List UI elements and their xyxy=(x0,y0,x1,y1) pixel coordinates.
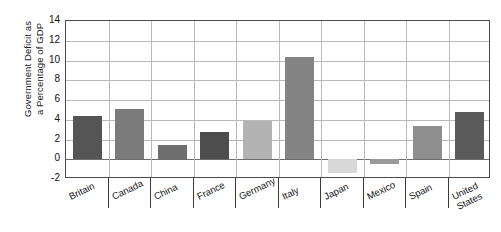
x-axis-label-line: China xyxy=(152,181,179,202)
bar xyxy=(328,159,357,173)
bar xyxy=(285,57,314,160)
bar xyxy=(455,112,484,159)
x-axis-label: Mexico xyxy=(365,179,397,202)
plot-area xyxy=(65,20,490,178)
bar xyxy=(413,126,442,160)
bar-chart: Government Deficit as a Percentage of GD… xyxy=(0,0,501,232)
bar-cell xyxy=(364,21,407,177)
x-axis-label: France xyxy=(195,179,226,202)
x-axis-separator xyxy=(235,178,236,208)
x-axis-label-line: Britain xyxy=(67,180,96,202)
bar-cell xyxy=(406,21,449,177)
x-axis-label: Germany xyxy=(237,175,277,202)
bar-cell xyxy=(66,21,109,177)
x-axis-label-line: Mexico xyxy=(365,179,397,202)
x-axis-separator xyxy=(448,178,449,208)
x-axis-label-line: Spain xyxy=(407,181,434,202)
y-tick-label: 2 xyxy=(38,134,60,144)
y-tick-label: 8 xyxy=(38,74,60,84)
x-axis-label: Japan xyxy=(322,181,350,202)
y-axis-title-line-1: Government Deficit as xyxy=(22,0,34,144)
bar-cell xyxy=(279,21,322,177)
y-tick-label: 10 xyxy=(38,55,60,65)
x-axis-separator xyxy=(278,178,279,208)
x-axis-separator xyxy=(108,178,109,208)
y-tick-label: 0 xyxy=(38,153,60,163)
x-axis-label-line: Germany xyxy=(237,175,277,202)
bar xyxy=(115,109,144,159)
x-axis-label-line: France xyxy=(195,179,226,202)
x-axis-separator xyxy=(405,178,406,208)
y-tick-label: 14 xyxy=(38,15,60,25)
bar-cell xyxy=(151,21,194,177)
bar xyxy=(73,116,102,159)
x-axis-label: Italy xyxy=(280,184,300,202)
x-axis-label: Spain xyxy=(407,181,434,202)
bar-series xyxy=(66,21,489,177)
x-axis-label: UnitedStates xyxy=(450,180,484,212)
bar xyxy=(370,159,399,164)
y-tick-label: 4 xyxy=(38,114,60,124)
bar-cell xyxy=(194,21,237,177)
x-axis-label-line: Italy xyxy=(280,184,300,202)
x-axis-label-line: Canada xyxy=(110,177,145,201)
x-axis-label: Canada xyxy=(110,177,145,201)
x-axis-label-line: Japan xyxy=(322,181,350,202)
x-axis-label: China xyxy=(152,181,179,202)
x-axis-label: Britain xyxy=(67,180,96,202)
x-axis-separator xyxy=(320,178,321,208)
x-axis-separator xyxy=(193,178,194,208)
bar-cell xyxy=(321,21,364,177)
bar-cell xyxy=(236,21,279,177)
y-tick-label: 6 xyxy=(38,94,60,104)
x-axis-labels: BritainCanadaChinaFranceGermanyItalyJapa… xyxy=(65,178,490,232)
bar-cell xyxy=(449,21,492,177)
y-axis-ticks: 14121086420-2 xyxy=(36,0,60,232)
x-axis-separator xyxy=(363,178,364,208)
y-tick-label: 12 xyxy=(38,35,60,45)
bar xyxy=(158,145,187,159)
bar xyxy=(200,132,229,160)
bar xyxy=(243,121,272,160)
x-axis-separator xyxy=(150,178,151,208)
bar-cell xyxy=(109,21,152,177)
y-tick-label: -2 xyxy=(38,173,60,183)
